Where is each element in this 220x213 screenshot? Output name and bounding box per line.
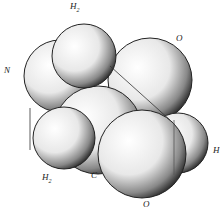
atom-O-bottom <box>98 110 186 198</box>
label-H2-bottom: H2 <box>42 172 52 184</box>
label-H2-top: H2 <box>70 1 80 13</box>
label-O-top: O <box>176 33 183 43</box>
label-N: N <box>4 65 10 75</box>
molecule-diagram: H2 O N H2 C H O <box>0 0 220 213</box>
label-H: H <box>213 145 220 155</box>
molecule-svg <box>0 0 220 213</box>
atom-H2-bottom <box>33 107 95 169</box>
atom-H2-top <box>52 24 116 88</box>
label-O-bottom: O <box>143 199 150 209</box>
label-C: C <box>91 170 97 180</box>
